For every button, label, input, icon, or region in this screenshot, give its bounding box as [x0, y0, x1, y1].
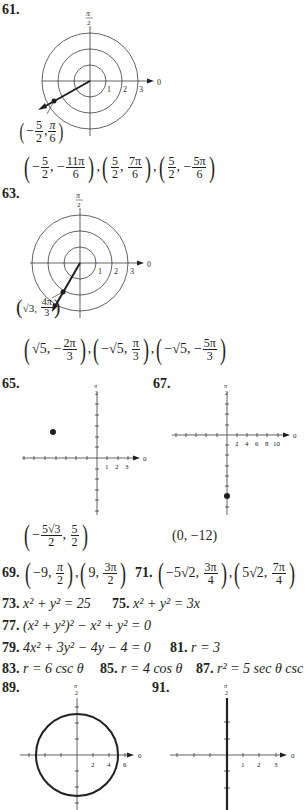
svg-text:π: π — [224, 383, 228, 389]
svg-text:0: 0 — [138, 752, 142, 760]
svg-text:2: 2 — [77, 201, 81, 209]
svg-text:3: 3 — [139, 85, 143, 94]
svg-text:0: 0 — [147, 260, 151, 269]
answer-77: 77. (x² + y²)² − x² + y² = 0 — [2, 618, 151, 634]
polar-plot-91: π 2 1 2 3 0 — [165, 680, 307, 810]
problem-number-65: 65. — [2, 376, 20, 392]
point-label-63: (√3, 4π3) — [16, 296, 60, 319]
svg-text:1: 1 — [241, 761, 245, 769]
svg-text:4: 4 — [245, 440, 249, 448]
svg-text:0: 0 — [293, 432, 297, 440]
arrow-icon — [127, 753, 134, 758]
svg-text:2: 2 — [91, 761, 95, 769]
svg-text:2: 2 — [87, 19, 91, 27]
answer-81: 81. r = 3 — [170, 640, 220, 656]
answer-73: 73. x² + y² = 25 — [2, 596, 91, 612]
answer-85: 85. r = 4 cos θ — [100, 661, 182, 677]
svg-text:0: 0 — [291, 752, 295, 760]
svg-text:π: π — [94, 383, 98, 389]
svg-text:π: π — [74, 683, 78, 689]
plot-point — [50, 429, 56, 435]
svg-text:2: 2 — [225, 390, 228, 396]
svg-text:3: 3 — [130, 267, 134, 276]
answer-65: (−5√32, 52) — [22, 520, 90, 550]
plot-point — [224, 493, 230, 499]
problem-number-61: 61. — [2, 2, 20, 18]
answer-61: (−52, −11π6), (52, 7π6), (52, −5π6) — [22, 152, 217, 182]
svg-text:2: 2 — [95, 390, 98, 396]
answer-63: (√5, −2π3), (−√5, π3), (−√5, −5π3) — [22, 334, 228, 364]
svg-text:0: 0 — [157, 78, 161, 87]
arrow-icon — [147, 79, 154, 84]
svg-text:2: 2 — [235, 440, 239, 448]
svg-text:3: 3 — [125, 463, 129, 471]
answer-69: 69. (−9, π2), (9, 3π2) — [2, 558, 128, 588]
svg-text:10: 10 — [273, 440, 281, 448]
svg-text:2: 2 — [225, 690, 228, 696]
answer-75: 75. x² + y² = 3x — [112, 596, 200, 612]
svg-text:8: 8 — [265, 440, 269, 448]
arrow-icon — [280, 753, 287, 758]
answer-79: 79. 4x² + 3y² − 4y − 4 = 0 — [2, 640, 151, 656]
point-label-61: (−52, π6) — [18, 116, 65, 146]
svg-text:π: π — [224, 683, 228, 689]
arrow-icon — [137, 261, 144, 266]
svg-text:π: π — [86, 9, 91, 18]
svg-text:1: 1 — [107, 85, 111, 94]
problem-number-63: 63. — [2, 186, 20, 202]
svg-text:0: 0 — [143, 455, 147, 463]
svg-text:6: 6 — [255, 440, 259, 448]
answer-67: (0, −12) — [172, 528, 217, 544]
svg-text:π: π — [76, 191, 81, 200]
answer-87: 87. r² = 5 sec θ csc θ — [196, 661, 307, 677]
svg-text:2: 2 — [123, 85, 127, 94]
svg-text:2: 2 — [115, 463, 119, 471]
svg-text:1: 1 — [98, 267, 102, 276]
answer-71: 71. (−5√2, 3π4), (5√2, 7π4) — [135, 558, 297, 588]
svg-text:6: 6 — [123, 761, 127, 769]
polar-plot-89: π 2 2 4 6 0 — [15, 680, 155, 810]
polar-plot-65: π 2 1 2 3 0 — [18, 380, 153, 515]
svg-text:2: 2 — [257, 761, 261, 769]
svg-text:2: 2 — [114, 267, 118, 276]
svg-text:1: 1 — [105, 463, 109, 471]
arrow-icon — [283, 433, 290, 438]
polar-plot-67: π 2 2 4 6 8 10 0 — [168, 380, 307, 515]
svg-text:4: 4 — [107, 761, 111, 769]
svg-text:3: 3 — [274, 761, 278, 769]
arrow-icon — [133, 456, 140, 461]
answer-83: 83. r = 6 csc θ — [2, 661, 84, 677]
svg-text:2: 2 — [75, 690, 78, 696]
